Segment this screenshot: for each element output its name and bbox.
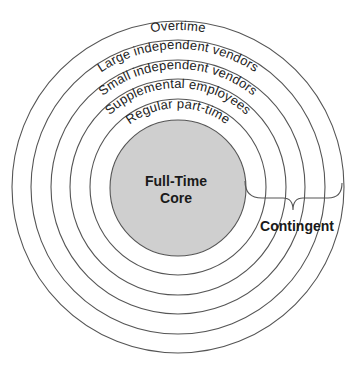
label-overtime: Overtime [149,18,206,35]
contingent-label: Contingent [260,218,334,234]
core-label-line1: Full-Time [145,173,207,189]
core-label-line2: Core [160,190,192,206]
workforce-diagram: Overtime Large independent vendors Small… [0,0,355,368]
contingent-brace [245,181,342,210]
